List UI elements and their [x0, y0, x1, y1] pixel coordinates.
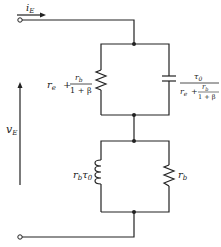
top-terminal[interactable] [18, 18, 22, 22]
voltage-arrow [18, 82, 23, 185]
lower-top-rail [101, 141, 169, 165]
bottom-terminal[interactable] [18, 235, 22, 239]
svg-text:re: re [47, 79, 56, 92]
inductor-label: rbτ0 [73, 169, 93, 182]
resistor-label-lower: rb [178, 169, 188, 182]
inductor-icon [95, 160, 101, 184]
circuit-diagram: iE re + rb 1 + β τ0 re + rb 1 + β rbτ0 [0, 0, 221, 247]
bottom-wire [22, 212, 134, 237]
top-wire [22, 20, 134, 44]
resistor-icon [164, 165, 174, 186]
svg-text:rb: rb [75, 73, 83, 83]
svg-text:rb: rb [202, 83, 209, 92]
voltage-label: vE [6, 123, 17, 137]
upper-top-rail [101, 44, 169, 76]
resistor-label-upper: re + rb 1 + β [47, 73, 92, 95]
svg-text:1 + β: 1 + β [70, 86, 92, 95]
current-label: iE [26, 2, 34, 15]
svg-text:+: + [191, 87, 198, 96]
svg-text:re: re [180, 87, 188, 97]
resistor-icon [96, 70, 106, 90]
capacitor-label: τ0 re + rb 1 + β [180, 72, 219, 101]
svg-text:τ0: τ0 [194, 72, 202, 82]
svg-text:1 + β: 1 + β [198, 93, 216, 101]
